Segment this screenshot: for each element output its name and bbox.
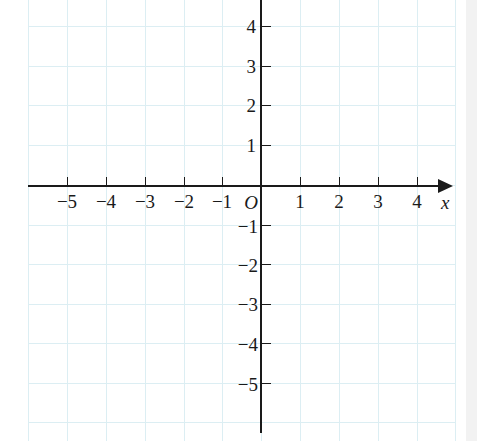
x-tick-label--5: −5 [57,192,77,211]
x-tick-label-3: 3 [373,192,383,211]
x-tick-label--2: −2 [174,192,194,211]
x-axis-label: x [441,192,449,214]
page-edge-strip [466,0,477,441]
origin-label: O [244,192,258,214]
coordinate-plane-figure: −5 −4 −3 −2 −1 1 2 3 4 4 3 2 1 −1 −2 −3 … [0,0,477,441]
y-tick-label--2: −2 [238,256,258,275]
x-tick-label-4: 4 [412,192,422,211]
y-axis-tick-marks [261,27,271,384]
y-tick-label-2: 2 [247,96,257,115]
x-axis-arrowhead [438,179,453,193]
x-tick-label--1: −1 [212,192,232,211]
y-tick-label-3: 3 [247,57,257,76]
y-tick-label-4: 4 [247,17,257,36]
x-tick-label-2: 2 [334,192,344,211]
x-tick-label-1: 1 [295,192,305,211]
x-axis-tick-marks [68,177,418,186]
x-tick-label--3: −3 [135,192,155,211]
y-tick-label-1: 1 [247,136,257,155]
y-tick-label--1: −1 [238,217,258,236]
y-tick-label--5: −5 [238,375,258,394]
x-tick-label--4: −4 [96,192,116,211]
y-tick-label--3: −3 [238,295,258,314]
y-tick-label--4: −4 [238,335,258,354]
